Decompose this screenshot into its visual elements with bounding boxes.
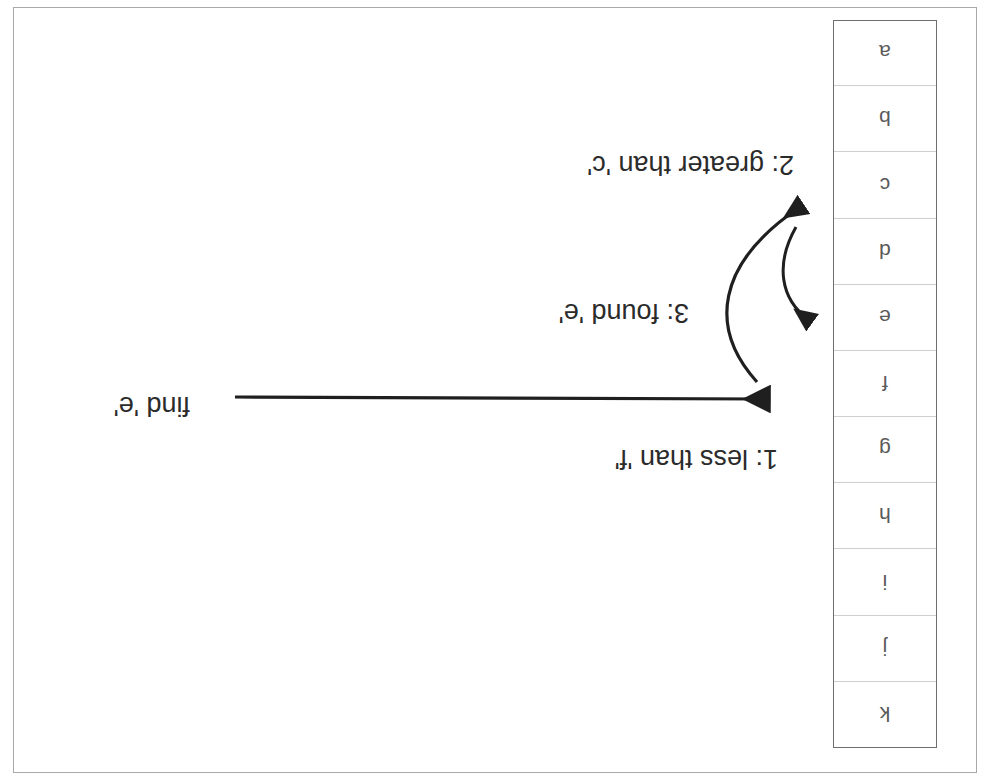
array-cell-label: k (880, 704, 891, 725)
array-cell-label: d (879, 241, 891, 262)
array-cell-label: g (879, 439, 891, 460)
array-cell[interactable]: b (834, 85, 936, 151)
array-cell[interactable]: h (834, 482, 936, 548)
step3-label: 3: found 'e' (559, 299, 689, 326)
step1-label: 1: less than 'f' (615, 445, 778, 472)
scanned-page: k j i h g f e d c (0, 0, 990, 784)
array-cell-label: h (879, 505, 891, 526)
diagram-canvas: k j i h g f e d c (0, 0, 990, 784)
array-cell[interactable]: c (834, 151, 936, 217)
array-cell[interactable]: e (834, 284, 936, 350)
array-cell-label: f (882, 373, 888, 394)
array-cell[interactable]: i (834, 548, 936, 614)
array-cell[interactable]: d (834, 218, 936, 284)
step3-arrow (783, 227, 809, 320)
array-cell-label: b (879, 108, 891, 129)
sorted-array-column: k j i h g f e d c (833, 20, 937, 748)
array-cell-label: j (883, 638, 888, 659)
query-arrow (235, 397, 766, 399)
query-label: find 'e' (114, 392, 190, 419)
array-cell[interactable]: k (834, 681, 936, 747)
array-cell-label: a (879, 42, 891, 63)
array-cell-label: i (883, 572, 888, 593)
array-cell[interactable]: a (834, 19, 936, 85)
array-cell[interactable]: j (834, 615, 936, 681)
array-cell[interactable]: f (834, 350, 936, 416)
array-cell[interactable]: g (834, 416, 936, 482)
array-cell-label: c (880, 175, 891, 196)
step2-arrow (727, 207, 800, 382)
array-cell-label: e (879, 307, 891, 328)
step2-label: 2: greater than 'c' (587, 151, 794, 178)
